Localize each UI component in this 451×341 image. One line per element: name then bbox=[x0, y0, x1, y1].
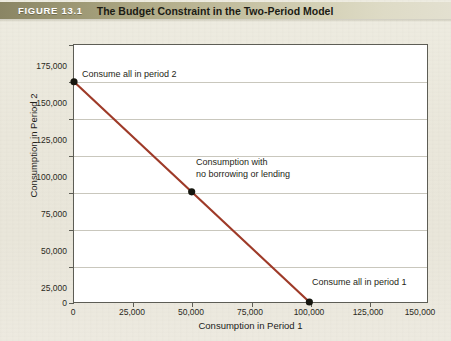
annotation-consume-all-period-2: Consume all in period 2 bbox=[82, 69, 177, 81]
point-no-borrowing-or-lending bbox=[188, 188, 195, 195]
chart-area: 175,000 150,000 125,000 100,000 75,000 5… bbox=[0, 22, 451, 341]
x-tick-mark-25000 bbox=[133, 302, 134, 307]
annotation-consume-all-period-1: Consume all in period 1 bbox=[312, 277, 407, 289]
point-consume-all-period-2 bbox=[70, 78, 77, 85]
figure-page: FIGURE 13.1 The Budget Constraint in the… bbox=[0, 0, 451, 341]
y-axis-title: Consumption in Period 2 bbox=[28, 51, 39, 241]
x-tick-label-25000: 25,000 bbox=[102, 307, 162, 317]
y-tick-label-25000: 25,000 bbox=[5, 283, 67, 293]
x-tick-label-125000: 125,000 bbox=[338, 307, 398, 317]
x-tick-label-75000: 75,000 bbox=[220, 307, 280, 317]
x-tick-label-50000: 50,000 bbox=[161, 307, 221, 317]
x-tick-mark-50000 bbox=[192, 302, 193, 307]
figure-header-band: FIGURE 13.1 The Budget Constraint in the… bbox=[0, 2, 451, 19]
figure-number-label: FIGURE 13.1 bbox=[18, 5, 83, 16]
x-tick-mark-125000 bbox=[370, 302, 371, 307]
annotation-no-borrowing-line-2: no borrowing or lending bbox=[196, 169, 290, 181]
annotation-no-borrowing-or-lending: Consumption with no borrowing or lending bbox=[196, 157, 290, 180]
annotation-no-borrowing-line-1: Consumption with bbox=[196, 157, 290, 169]
x-axis-title: Consumption in Period 1 bbox=[73, 320, 428, 331]
figure-title: The Budget Constraint in the Two-Period … bbox=[97, 5, 334, 17]
x-tick-mark-75000 bbox=[252, 302, 253, 307]
x-tick-label-150000: 150,000 bbox=[390, 307, 450, 317]
x-tick-label-100000: 100,000 bbox=[279, 307, 339, 317]
x-tick-label-0: 0 bbox=[43, 307, 103, 317]
y-tick-label-50000: 50,000 bbox=[5, 246, 67, 256]
point-consume-all-period-1 bbox=[306, 298, 313, 305]
y-tick-mark-0 bbox=[69, 303, 74, 304]
